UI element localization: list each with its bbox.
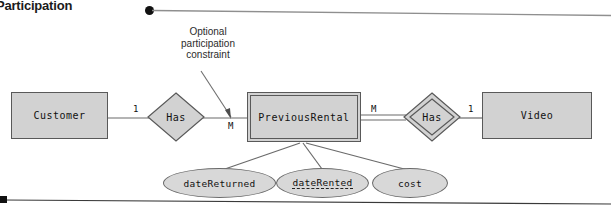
bullet-marker-icon — [145, 6, 154, 15]
entity-video: Video — [482, 92, 592, 139]
entity-previousrental-label: PreviousRental — [258, 112, 349, 123]
attribute-cost-label: cost — [398, 178, 422, 189]
callout-text: Optional participation constraint — [156, 26, 260, 61]
footer-corner-mark — [0, 196, 7, 203]
callout-line-3: constraint — [156, 49, 260, 61]
link-previousrental-datereturned — [222, 143, 300, 170]
callout-leader-line — [201, 71, 231, 117]
relationship-has-right-label: Has — [404, 93, 460, 141]
link-previousrental-daterented — [303, 143, 322, 169]
link-previousrental-cost — [306, 143, 408, 170]
attribute-datereturned: dateReturned — [163, 168, 276, 198]
entity-video-label: Video — [521, 110, 554, 121]
entity-previousrental: PreviousRental — [247, 92, 361, 142]
attribute-cost: cost — [372, 168, 448, 198]
footer-rule — [4, 200, 611, 204]
attribute-datereturned-label: dateReturned — [183, 178, 255, 189]
cardinality-customer-has: 1 — [133, 104, 138, 114]
callout-arrowhead-icon — [225, 108, 231, 119]
entity-customer: Customer — [11, 92, 108, 139]
entity-previousrental-inner-border: PreviousRental — [250, 95, 358, 139]
callout-line-1: Optional — [156, 26, 260, 38]
relationship-has-right: Has — [404, 93, 460, 141]
cardinality-has-video: 1 — [468, 104, 473, 114]
relationship-has-left: Has — [148, 93, 204, 141]
entity-customer-label: Customer — [33, 110, 85, 121]
slide-canvas: Participation Optional participation con… — [0, 0, 611, 205]
relationship-has-left-label: Has — [148, 93, 204, 141]
cardinality-has-previousrental: M — [228, 121, 233, 131]
attribute-daterented: dateRented — [276, 168, 369, 198]
heading-rule — [152, 11, 611, 16]
cardinality-previousrental-has: M — [371, 104, 376, 114]
callout-line-2: participation — [156, 38, 260, 50]
page-title: Participation — [0, 0, 72, 13]
attribute-daterented-label: dateRented — [292, 178, 352, 189]
